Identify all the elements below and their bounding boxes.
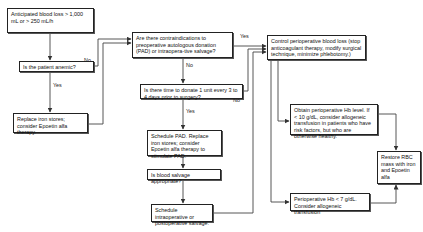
flowchart: Anticipated blood loss > 1,000 mL or > 2…: [0, 0, 423, 232]
edge-label-anemic-no: No: [84, 57, 91, 63]
node-salvage-question: Is blood salvage appropriate?: [147, 169, 221, 180]
node-schedule-pad: Schedule PAD. Replace iron stores; consi…: [147, 130, 222, 156]
node-replace-iron: Replace iron stores; consider Epoetin al…: [13, 113, 88, 133]
node-obtain-hb: Obtain perioperative Hb level. If < 10 g…: [290, 104, 378, 135]
node-contraindications-question: Are there contraindications to preoperat…: [132, 32, 233, 58]
node-restore-rbc: Restore RBC mass with iron and Epoetin a…: [377, 151, 421, 184]
edge-label-contra-no: No: [186, 62, 193, 68]
node-time-to-donate-question: Is there time to donate 1 unit every 3 t…: [140, 84, 243, 99]
node-start: Anticipated blood loss > 1,000 mL or > 2…: [7, 8, 94, 33]
edge-label-time-yes: Yes: [186, 108, 195, 114]
node-hb-under-7: Perioperative Hb < 7 g/dL. Consider allo…: [290, 193, 370, 211]
node-anemic-question: Is the patient anemic?: [19, 61, 94, 72]
edge-label-contra-yes: Yes: [240, 33, 249, 39]
node-control-blood-loss: Control perioperative blood loss (stop a…: [267, 35, 366, 60]
edge-label-anemic-yes: Yes: [53, 82, 62, 88]
node-schedule-salvage: Schedule intraoperative or postoperative…: [151, 204, 213, 222]
edge-label-time-no: No: [233, 97, 240, 103]
